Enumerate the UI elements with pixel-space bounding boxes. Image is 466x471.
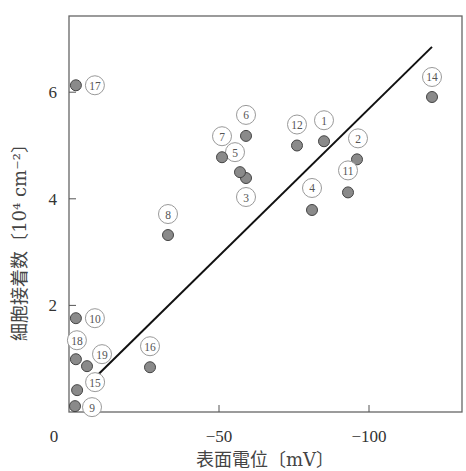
point-label: 6 — [243, 109, 249, 121]
data-point — [343, 187, 354, 198]
data-point — [72, 385, 83, 396]
point-label: 11 — [342, 165, 353, 177]
x-axis-title: 表面電位〔mV〕 — [196, 449, 334, 470]
data-point — [145, 362, 156, 373]
point-label: 7 — [219, 131, 225, 143]
point-label: 3 — [243, 192, 249, 204]
point-label: 18 — [71, 335, 83, 347]
point-label: 14 — [426, 71, 438, 83]
point-label: 10 — [89, 313, 101, 325]
data-point — [319, 136, 330, 147]
data-point — [70, 354, 81, 365]
data-point — [307, 204, 318, 215]
data-point — [292, 140, 303, 151]
y-axis-title: 細胞接着数〔10⁴ cm⁻²〕 — [9, 135, 30, 341]
point-label: 17 — [89, 80, 101, 92]
point-label: 16 — [144, 341, 156, 353]
data-point — [217, 152, 228, 163]
data-point — [70, 313, 81, 324]
point-label: 9 — [89, 402, 95, 414]
regression-line — [97, 47, 432, 376]
point-label: 8 — [165, 209, 171, 221]
x-tick-label: −50 — [206, 427, 233, 446]
data-point — [427, 91, 438, 102]
data-point — [235, 167, 246, 178]
data-point — [82, 361, 93, 372]
x-tick-label: −100 — [351, 427, 386, 446]
point-label: 19 — [96, 349, 108, 361]
point-label: 2 — [355, 133, 361, 145]
y-tick-label: 6 — [49, 83, 58, 102]
data-point — [241, 130, 252, 141]
data-point — [70, 401, 81, 412]
point-label: 4 — [309, 182, 315, 194]
data-point — [70, 80, 81, 91]
point-label: 5 — [232, 147, 238, 159]
point-label: 15 — [89, 377, 101, 389]
scatter-chart: 2460−50−100表面電位〔mV〕細胞接着数〔10⁴ cm⁻²〕123456… — [0, 0, 466, 471]
point-label: 12 — [291, 119, 303, 131]
point-label: 1 — [321, 115, 327, 127]
y-tick-label: 4 — [49, 190, 58, 209]
y-tick-label: 2 — [49, 296, 58, 315]
data-point — [163, 230, 174, 241]
x-tick-label: 0 — [50, 427, 59, 446]
